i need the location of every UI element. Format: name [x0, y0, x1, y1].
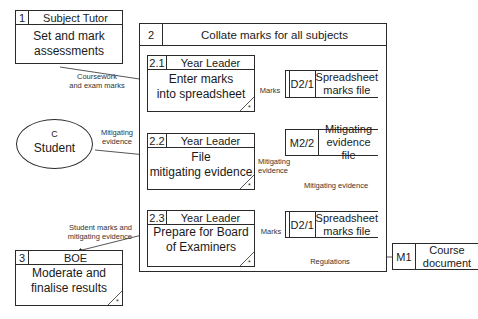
store-id: D2/1	[290, 71, 316, 97]
external-entity-student[interactable]: C Student	[16, 119, 93, 169]
process-3-boe[interactable]: 3 BOE Moderate and finalise results *	[15, 250, 123, 306]
svg-text:*: *	[248, 182, 251, 189]
data-store-d2-1-top[interactable]: D2/1 Spreadsheet marks file	[285, 70, 378, 98]
process-2-2-file-evidence[interactable]: 2.2 Year Leader File mitigating evidence…	[147, 133, 255, 190]
flow-label-student-evidence: Mitigating evidence	[94, 128, 140, 146]
process-title: Collate marks for all subjects	[163, 29, 386, 41]
process-description-line1: Prepare for Board	[153, 225, 248, 240]
process-2-3-prepare-boe[interactable]: 2.3 Year Leader Prepare for Board of Exa…	[147, 210, 255, 267]
process-description-line2: into spreadsheet	[157, 87, 246, 102]
process-owner: Year Leader	[167, 57, 254, 69]
process-id: 2	[140, 24, 163, 45]
process-id: 2.3	[148, 211, 167, 224]
flow-label-evidence-to-prepare: Mitigating evidence	[296, 181, 376, 190]
process-id: 3	[16, 251, 29, 264]
process-owner: Year Leader	[167, 135, 254, 147]
store-name-line1: Mitigating	[319, 123, 378, 136]
flow-label-file-evidence: Mitigating evidence	[258, 157, 298, 175]
process-id: 1	[16, 11, 29, 24]
star-corner-icon: *	[240, 97, 254, 111]
svg-text:*: *	[248, 259, 251, 266]
svg-text:*: *	[248, 104, 251, 111]
process-description-line2: of Examiners	[153, 240, 248, 255]
store-name-line2: marks file	[316, 225, 378, 238]
process-description-line1: Enter marks	[157, 72, 246, 87]
process-id: 2.1	[148, 56, 167, 69]
store-name-line1: Course	[423, 244, 471, 257]
data-store-m1[interactable]: M1 Course document	[392, 243, 478, 270]
process-description-line2: assessments	[33, 44, 104, 59]
star-corner-icon: *	[240, 175, 254, 189]
entity-id: C	[17, 129, 92, 139]
process-description-line2: mitigating evidence	[150, 165, 253, 180]
process-owner: Subject Tutor	[29, 12, 122, 24]
process-owner: BOE	[29, 252, 122, 264]
flow-label-regulations: Regulations	[290, 257, 370, 266]
store-name-line1: Spreadsheet	[316, 212, 378, 225]
flow-label-marks-top: Marks	[256, 86, 284, 95]
store-name-line1: Spreadsheet	[316, 71, 378, 84]
store-name-line2: marks file	[316, 84, 378, 97]
store-id: M1	[393, 244, 416, 269]
process-1-subject-tutor[interactable]: 1 Subject Tutor Set and mark assessments	[15, 10, 123, 64]
svg-text:*: *	[116, 298, 119, 305]
process-description-line2: finalise results	[31, 281, 107, 296]
store-id: D2/1	[290, 212, 316, 237]
data-store-d2-1-bottom[interactable]: D2/1 Spreadsheet marks file	[285, 211, 378, 238]
entity-name: Student	[17, 141, 92, 155]
store-id: M2/2	[286, 130, 319, 155]
flow-label-marks-bottom: Marks	[258, 227, 284, 236]
process-description-line1: File	[150, 150, 253, 165]
process-owner: Year Leader	[167, 212, 254, 224]
flow-label-coursework: Coursework and exam marks	[62, 72, 132, 90]
star-corner-icon: *	[108, 291, 122, 305]
flow-label-student-marks: Student marks and mitigating evidence	[52, 223, 132, 241]
process-description-line1: Set and mark	[33, 29, 104, 44]
store-name-line2: document	[423, 257, 471, 270]
process-id: 2.2	[148, 134, 167, 147]
data-store-m2-2[interactable]: M2/2 Mitigating evidence file	[285, 129, 378, 156]
star-corner-icon: *	[240, 252, 254, 266]
process-description-line1: Moderate and	[31, 266, 107, 281]
store-name-line2: evidence file	[319, 136, 378, 162]
process-2-1-enter-marks[interactable]: 2.1 Year Leader Enter marks into spreads…	[147, 55, 255, 112]
